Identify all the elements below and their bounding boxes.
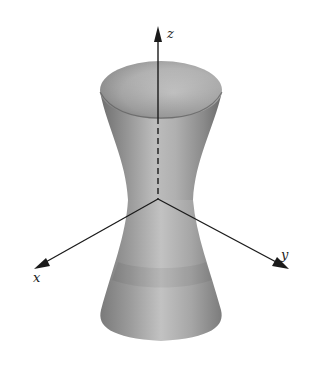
hyperboloid-diagram: z x y [0,0,316,368]
x-axis-label: x [33,270,41,285]
y-axis-label: y [280,247,289,262]
x-axis-arrowhead [34,258,50,269]
hyperboloid-top-opening [100,61,222,119]
z-axis-arrowhead [154,26,162,42]
z-axis-label: z [166,26,174,41]
